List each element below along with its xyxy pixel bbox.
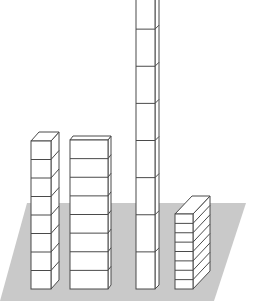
side-face <box>155 0 159 289</box>
diagram-canvas <box>0 0 256 305</box>
stack-3 <box>136 0 159 289</box>
stack-2 <box>70 136 111 289</box>
front-face <box>136 0 155 289</box>
stack-4 <box>175 196 210 289</box>
top-face <box>70 136 111 140</box>
stacked-blocks-diagram <box>0 0 256 305</box>
stack-1 <box>31 132 59 289</box>
